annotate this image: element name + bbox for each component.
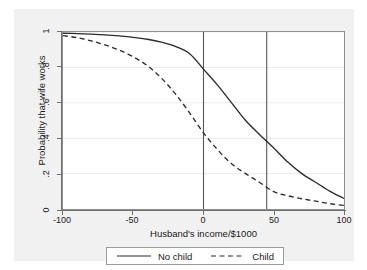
legend-label-no-child: No child bbox=[158, 251, 192, 262]
chart-legend: No child Child bbox=[106, 247, 284, 265]
y-tick-label-04: .4 bbox=[38, 132, 54, 144]
x-tick-label-0: 0 bbox=[183, 215, 223, 225]
y-tick-label-1: 1 bbox=[38, 25, 54, 37]
graph-region: Probability that wife works 1 .8 .6 .4 .… bbox=[14, 9, 354, 261]
y-tick-mark-08 bbox=[57, 66, 61, 67]
y-tick-mark-06 bbox=[57, 102, 61, 103]
x-tick-label-50: 50 bbox=[254, 215, 294, 225]
legend-entry-child: Child bbox=[210, 251, 274, 262]
y-tick-mark-04 bbox=[57, 138, 61, 139]
y-tick-mark-1 bbox=[57, 31, 61, 32]
legend-label-child: Child bbox=[252, 251, 274, 262]
x-tick-label-n100: -100 bbox=[42, 215, 82, 225]
plot-area bbox=[62, 31, 345, 210]
x-tick-label-100: 100 bbox=[324, 215, 364, 225]
y-tick-label-08: .8 bbox=[38, 60, 54, 72]
legend-swatch-dashed bbox=[210, 251, 246, 261]
legend-entry-no-child: No child bbox=[116, 251, 192, 262]
reference-lines bbox=[204, 32, 267, 209]
y-tick-label-02: .2 bbox=[38, 168, 54, 180]
chart-page: Probability that wife works 1 .8 .6 .4 .… bbox=[0, 0, 367, 270]
legend-swatch-solid bbox=[116, 251, 152, 261]
y-tick-mark-02 bbox=[57, 174, 61, 175]
x-axis-title: Husband's income/$1000 bbox=[62, 228, 345, 239]
y-tick-label-06: .6 bbox=[38, 96, 54, 108]
x-tick-label-n50: -50 bbox=[112, 215, 152, 225]
plot-canvas bbox=[63, 32, 344, 209]
